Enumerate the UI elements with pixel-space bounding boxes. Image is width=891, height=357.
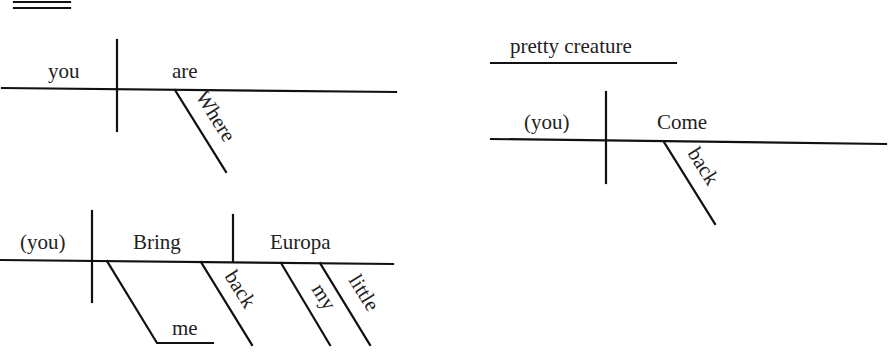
modifier-word-back: back — [220, 266, 262, 313]
sentence-diagrams: you are Where pretty creature (you) Come… — [0, 0, 891, 357]
baseline — [2, 88, 396, 92]
subject-word: (you) — [524, 110, 570, 134]
cropped-double-rule — [14, 2, 70, 8]
indirect-object-word: me — [172, 316, 198, 340]
subject-word: you — [48, 59, 80, 83]
diagram-bring-europa: me back my little (you) Bring Europa — [0, 211, 393, 345]
predicate-word: Bring — [133, 230, 181, 254]
predicate-word: Come — [657, 110, 707, 134]
modifier-word-little: little — [344, 270, 385, 315]
direct-object-word: Europa — [270, 230, 331, 254]
predicate-word: are — [172, 59, 198, 83]
diagram-where-are-you: you are Where — [2, 40, 396, 172]
baseline — [0, 260, 393, 264]
direct-address-word: pretty creature — [510, 34, 632, 58]
modifier-word-my: my — [307, 279, 342, 315]
diagram-come-back: pretty creature (you) Come back — [491, 34, 886, 224]
baseline — [491, 139, 886, 144]
subject-word: (you) — [20, 230, 66, 254]
modifier-word: Where — [191, 86, 241, 146]
